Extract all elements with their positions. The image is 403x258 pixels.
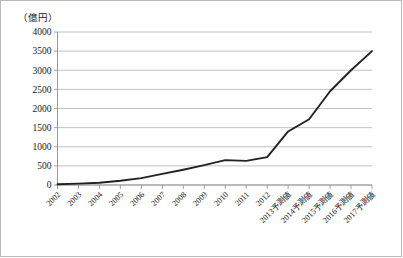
x-axis-tick-label-group: 2002200320042005200620072008200920102011… <box>44 189 376 225</box>
line-chart-svg: 05001000150020002500300035004000 2002200… <box>0 0 403 258</box>
y-axis-tick-label: 2000 <box>33 104 52 114</box>
x-axis-tick-label: 2010 <box>212 190 230 208</box>
x-axis-tick-label: 2006 <box>128 190 146 208</box>
x-axis-tick-label: 2004 <box>86 190 104 208</box>
x-axis-tick-label: 2007 <box>149 190 167 208</box>
x-axis-tick-label: 2008 <box>170 190 188 208</box>
y-axis-tick-label: 2500 <box>33 85 52 95</box>
y-axis-tick-label: 1500 <box>33 123 52 133</box>
y-axis-tick-label: 1000 <box>33 142 52 152</box>
x-axis-tick-label: 2005 <box>107 190 125 208</box>
x-axis-tick-label: 2009 <box>191 190 209 208</box>
y-axis-tick-label-group: 05001000150020002500300035004000 <box>33 27 52 190</box>
x-axis-tick-label: 2003 <box>65 190 83 208</box>
gridline-group <box>54 32 372 185</box>
chart-plot-area: 05001000150020002500300035004000 2002200… <box>0 0 403 258</box>
y-axis-tick-label: 0 <box>47 180 52 190</box>
y-axis-tick-label: 3500 <box>33 46 52 56</box>
x-axis-tickmark-group <box>58 185 373 189</box>
data-series-line <box>58 51 373 184</box>
x-axis-tick-label: 2002 <box>44 190 62 208</box>
y-axis-tick-label: 500 <box>37 161 52 171</box>
x-axis-tick-label: 2012 <box>254 190 272 208</box>
y-axis-tick-label: 3000 <box>33 66 52 76</box>
x-axis-tick-label: 2011 <box>233 190 251 208</box>
y-axis-tick-label: 4000 <box>33 27 52 37</box>
